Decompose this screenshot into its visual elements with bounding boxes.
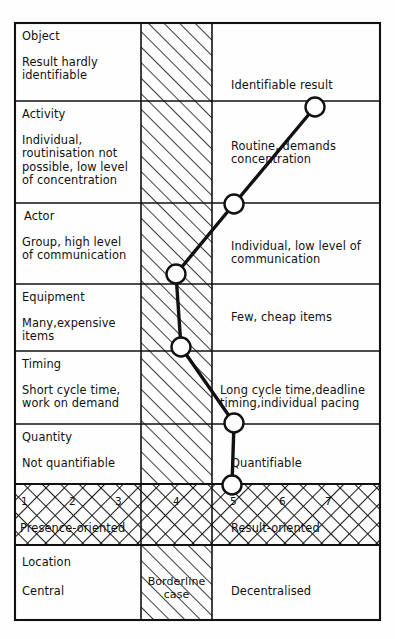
profile-point-timing[interactable]	[225, 414, 244, 433]
scale-number-7: 7	[325, 495, 332, 507]
profile-point-quantity[interactable]	[223, 476, 242, 495]
left-pole-object: Result hardly identifiable	[22, 56, 98, 83]
scale-number-1: 1	[21, 495, 28, 507]
scale-number-3: 3	[115, 495, 122, 507]
right-pole-object: Identifiable result	[231, 79, 333, 92]
scale-number-2: 2	[69, 495, 76, 507]
dimension-title-timing: Timing	[22, 358, 61, 371]
dimension-title-activity: Activity	[22, 108, 65, 121]
profile-point-equipment[interactable]	[172, 338, 191, 357]
scale-number-6: 6	[279, 495, 286, 507]
profile-point-activity[interactable]	[225, 195, 244, 214]
dimension-title-object: Object	[22, 30, 60, 43]
left-pole-activity: Individual, routinisation not possible, …	[22, 134, 128, 188]
left-pole-equipment: Many,expensive items	[22, 317, 116, 344]
scale-band-hatch	[15, 484, 380, 545]
dimension-title-actor: Actor	[24, 210, 54, 223]
left-pole-quantity: Not quantifiable	[22, 457, 115, 470]
dimension-title-quantity: Quantity	[22, 431, 72, 444]
left-pole-actor: Group, high level of communication	[22, 236, 126, 263]
right-pole-quantity: Quantifiable	[231, 457, 302, 470]
left-pole-location: Central	[22, 585, 64, 598]
dimension-title-location: Location	[22, 556, 71, 569]
scale-label-presence-oriented: Presence-oriented	[20, 522, 125, 535]
right-pole-timing: Long cycle time,deadline timing,individu…	[220, 384, 365, 411]
right-pole-activity: Routine, demands concentration	[231, 140, 336, 167]
scale-number-5: 5	[230, 495, 237, 507]
middle-pole-location: Borderline case	[142, 576, 211, 602]
profile-point-actor[interactable]	[167, 265, 186, 284]
scale-number-4: 4	[173, 495, 180, 507]
profile-diagram: Object Result hardly identifiable Activi…	[0, 0, 395, 639]
right-pole-location: Decentralised	[231, 585, 311, 598]
right-pole-actor: Individual, low level of communication	[231, 240, 361, 267]
right-pole-equipment: Few, cheap items	[231, 311, 332, 324]
profile-point-object[interactable]	[306, 98, 325, 117]
left-pole-timing: Short cycle time, work on demand	[22, 384, 120, 411]
scale-label-result-oriented: Result-oriented	[231, 522, 320, 535]
middle-column-hatch-top	[141, 23, 212, 484]
dimension-title-equipment: Equipment	[22, 291, 85, 304]
